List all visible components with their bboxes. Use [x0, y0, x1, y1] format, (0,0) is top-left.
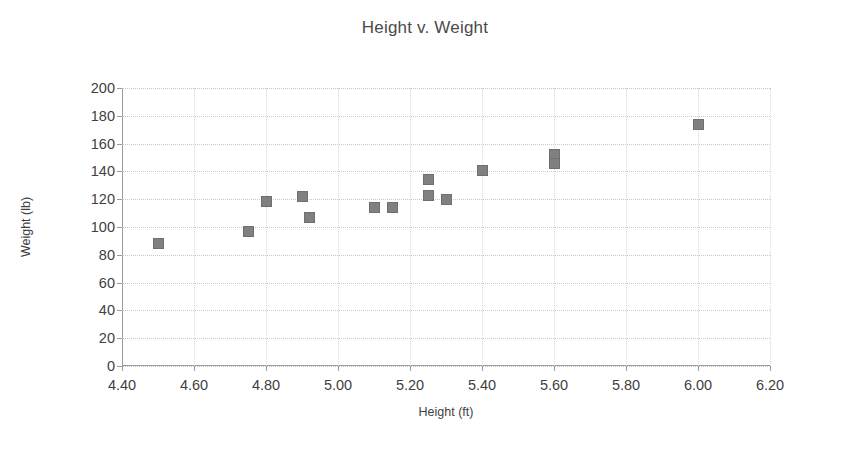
- y-tick-label: 140: [91, 163, 115, 179]
- data-point: [261, 196, 272, 207]
- x-tick-label: 4.80: [252, 377, 280, 393]
- y-tick-mark: [117, 338, 122, 339]
- gridline-horizontal: [122, 88, 770, 89]
- gridline-horizontal: [122, 338, 770, 339]
- x-tick-mark: [482, 366, 483, 371]
- data-point: [549, 158, 560, 169]
- y-tick-label: 100: [91, 219, 115, 235]
- chart-title: Height v. Weight: [0, 18, 850, 38]
- x-tick-mark: [770, 366, 771, 371]
- x-tick-mark: [122, 366, 123, 371]
- gridline-vertical: [194, 88, 195, 366]
- gridline-vertical: [698, 88, 699, 366]
- x-tick-label: 6.20: [756, 377, 784, 393]
- y-tick-mark: [117, 171, 122, 172]
- gridline-horizontal: [122, 144, 770, 145]
- plot-area: 020406080100120140160180200 4.404.604.80…: [122, 88, 770, 366]
- gridline-vertical: [266, 88, 267, 366]
- x-tick-label: 5.40: [468, 377, 496, 393]
- y-axis-title: Weight (lb): [19, 197, 33, 257]
- gridline-horizontal: [122, 171, 770, 172]
- data-point: [304, 212, 315, 223]
- data-point: [369, 202, 380, 213]
- x-tick-mark: [266, 366, 267, 371]
- data-point: [441, 194, 452, 205]
- x-tick-label: 4.60: [180, 377, 208, 393]
- x-tick-label: 4.40: [108, 377, 136, 393]
- y-tick-mark: [117, 255, 122, 256]
- data-point: [477, 165, 488, 176]
- x-tick-label: 5.80: [612, 377, 640, 393]
- gridline-vertical: [770, 88, 771, 366]
- gridline-horizontal: [122, 310, 770, 311]
- x-tick-mark: [410, 366, 411, 371]
- y-tick-label: 160: [91, 136, 115, 152]
- x-tick-mark: [338, 366, 339, 371]
- y-tick-mark: [117, 144, 122, 145]
- data-point: [423, 174, 434, 185]
- gridline-horizontal: [122, 283, 770, 284]
- gridline-vertical: [338, 88, 339, 366]
- y-tick-label: 200: [91, 80, 115, 96]
- gridline-vertical: [482, 88, 483, 366]
- data-point: [153, 238, 164, 249]
- x-tick-label: 5.60: [540, 377, 568, 393]
- y-tick-label: 40: [99, 302, 115, 318]
- x-tick-label: 6.00: [684, 377, 712, 393]
- gridline-vertical: [626, 88, 627, 366]
- x-tick-label: 5.00: [324, 377, 352, 393]
- data-point: [243, 226, 254, 237]
- scatter-chart: Height v. Weight 02040608010012014016018…: [0, 0, 850, 454]
- y-tick-mark: [117, 227, 122, 228]
- y-tick-label: 60: [99, 275, 115, 291]
- gridline-horizontal: [122, 366, 770, 367]
- y-tick-label: 0: [107, 358, 115, 374]
- y-tick-mark: [117, 283, 122, 284]
- y-tick-label: 80: [99, 247, 115, 263]
- gridline-horizontal: [122, 227, 770, 228]
- data-point: [423, 190, 434, 201]
- data-point: [297, 191, 308, 202]
- x-tick-mark: [194, 366, 195, 371]
- x-tick-label: 5.20: [396, 377, 424, 393]
- x-axis-title: Height (ft): [122, 405, 770, 419]
- gridline-vertical: [554, 88, 555, 366]
- y-tick-mark: [117, 310, 122, 311]
- y-tick-label: 180: [91, 108, 115, 124]
- gridline-horizontal: [122, 116, 770, 117]
- x-tick-mark: [698, 366, 699, 371]
- y-tick-label: 120: [91, 191, 115, 207]
- x-tick-mark: [554, 366, 555, 371]
- x-tick-mark: [626, 366, 627, 371]
- y-tick-mark: [117, 199, 122, 200]
- gridline-vertical: [410, 88, 411, 366]
- gridline-horizontal: [122, 255, 770, 256]
- data-point: [387, 202, 398, 213]
- y-tick-mark: [117, 116, 122, 117]
- data-point: [693, 119, 704, 130]
- y-tick-label: 20: [99, 330, 115, 346]
- y-tick-mark: [117, 88, 122, 89]
